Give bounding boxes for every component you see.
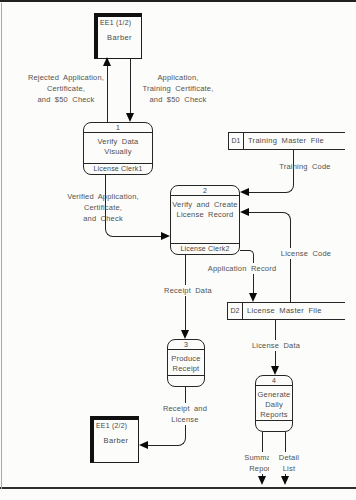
arrowhead-right-icon: [161, 232, 170, 240]
flow-label-detail-list: Detail List: [269, 452, 309, 474]
process-name: Verify and Create License Record: [171, 196, 239, 220]
flow-label-application-record: Application Record: [198, 263, 286, 274]
flow-label-training-code: Training Code: [268, 161, 342, 172]
datastore-d1-training-master-file: D1 Training Master File: [228, 132, 345, 150]
process-name: Verify Data Visually: [84, 133, 152, 157]
process-number: 1: [84, 123, 152, 133]
process-name: Generate Daily Reports: [256, 386, 292, 420]
page-bottom-rule: [0, 487, 356, 489]
flow-label-application: Application, Training Certificate, and $…: [126, 72, 230, 105]
arrowhead-left-icon: [240, 188, 249, 196]
page-left-rule: [1, 3, 2, 489]
entity-barber-sink: EE1 (2/2) Barber: [90, 416, 139, 463]
process-4-generate-reports: 4 Generate Daily Reports: [255, 375, 293, 432]
flow-label-license-data: License Data: [243, 340, 309, 351]
process-actor: License Clerk1: [84, 163, 152, 174]
datastore-name: License Master File: [243, 303, 324, 319]
process-number: 2: [171, 186, 239, 196]
arrowhead-left-icon: [139, 441, 148, 449]
datastore-id: D1: [229, 133, 244, 149]
entity-name: Barber: [94, 436, 138, 445]
page-top-rule: [0, 0, 356, 2]
entity-code: EE1 (2/2): [94, 420, 138, 429]
process-actor: [168, 375, 204, 386]
arrowhead-down-icon: [126, 113, 134, 122]
process-name: Produce Receipt: [168, 350, 204, 374]
process-actor: [256, 420, 292, 431]
datastore-id: D2: [228, 303, 243, 319]
arrowhead-down-icon: [271, 366, 279, 375]
arrowhead-down-icon: [281, 476, 289, 485]
process-1-verify-data: 1 Verify Data Visually License Clerk1: [83, 122, 153, 175]
process-3-produce-receipt: 3 Produce Receipt: [167, 339, 205, 387]
flow-label-receipt-data: Receipt Data: [154, 285, 222, 296]
arrowhead-up-icon: [103, 57, 111, 66]
process-2-verify-create-record: 2 Verify and Create License Record Licen…: [170, 185, 240, 255]
arrowhead-down-icon: [258, 476, 266, 485]
datastore-name: Training Master File: [244, 133, 326, 149]
flow-label-verified: Verified Application, Certificate, and C…: [50, 191, 156, 224]
flow-label-license-code: License Code: [268, 248, 344, 259]
entity-name: Barber: [98, 33, 141, 42]
arrowhead-down-icon: [249, 293, 257, 302]
flow-label-receipt-license: Receipt and License: [151, 403, 219, 425]
flow-label-rejected: Rejected Application, Certificate, and $…: [14, 72, 118, 105]
entity-code: EE1 (1/2): [98, 17, 141, 26]
process-number: 4: [256, 376, 292, 386]
arrowhead-down-icon: [181, 330, 189, 339]
datastore-d2-license-master-file: D2 License Master File: [227, 302, 345, 320]
process-number: 3: [168, 340, 204, 350]
arrowhead-left-icon: [240, 208, 249, 216]
dfd-diagram-page: EE1 (1/2) Barber EE1 (2/2) Barber 1 Veri…: [0, 0, 356, 500]
entity-barber-source: EE1 (1/2) Barber: [94, 13, 142, 59]
process-actor: License Clerk2: [171, 243, 239, 254]
